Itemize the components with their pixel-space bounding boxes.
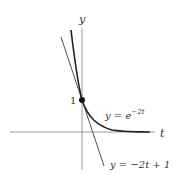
t-axis-label: t (160, 127, 165, 140)
tangent-point (79, 97, 85, 103)
diagram-canvas: y t 1 y = e−2t y = −2t + 1 (0, 0, 176, 183)
y-axis-label: y (78, 13, 86, 26)
curve-label: y = e−2t (104, 108, 145, 121)
y-tick-label: 1 (70, 95, 76, 106)
tangent-label: y = −2t + 1 (109, 159, 170, 170)
curve-label-exponent: −2t (131, 108, 144, 116)
curve-label-base: y = e (104, 110, 131, 121)
